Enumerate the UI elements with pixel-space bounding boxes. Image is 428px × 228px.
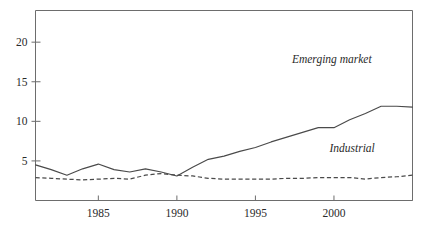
line-chart: 5101520 1985199019952000 Emerging market…	[0, 0, 428, 228]
plot-frame	[36, 11, 413, 201]
frame-border	[36, 11, 413, 201]
y-axis-ticks: 5101520	[16, 36, 41, 167]
series-line-industrial	[36, 174, 413, 180]
y-tick-label: 20	[16, 36, 28, 48]
y-tick-label: 15	[16, 76, 28, 88]
series-line-emerging-market	[36, 106, 413, 176]
x-tick-label: 1995	[244, 207, 267, 219]
chart-container: 5101520 1985199019952000 Emerging market…	[0, 0, 428, 228]
series-label-emerging-market: Emerging market	[291, 53, 373, 66]
x-tick-label: 1985	[87, 207, 110, 219]
y-tick-label: 10	[16, 115, 28, 127]
y-tick-label: 5	[22, 155, 28, 167]
series-label-industrial: Industrial	[328, 142, 374, 154]
series-annotations: Emerging marketIndustrial	[291, 53, 375, 154]
x-axis-ticks: 1985199019952000	[87, 196, 413, 219]
x-tick-label: 1990	[165, 207, 188, 219]
x-tick-label: 2000	[322, 207, 345, 219]
